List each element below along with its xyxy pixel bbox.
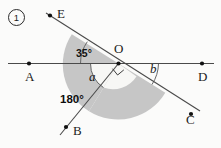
point-label-C: C	[186, 113, 195, 126]
dot-B	[64, 125, 68, 129]
dot-O	[116, 61, 120, 65]
point-label-B: B	[73, 124, 82, 137]
point-label-O: O	[114, 42, 123, 55]
angle-label-a: a	[89, 70, 96, 83]
dot-E	[48, 13, 52, 17]
dot-D	[200, 61, 204, 65]
dot-A	[27, 61, 31, 65]
angle-label-35: 35°	[76, 48, 92, 59]
angle-label-180: 180°	[60, 94, 84, 106]
geometry-figure: 1 E A O D B C 3	[0, 0, 221, 148]
point-label-A: A	[25, 70, 34, 83]
point-label-E: E	[57, 7, 65, 20]
point-label-D: D	[198, 70, 207, 83]
angle-label-b: b	[150, 62, 157, 75]
